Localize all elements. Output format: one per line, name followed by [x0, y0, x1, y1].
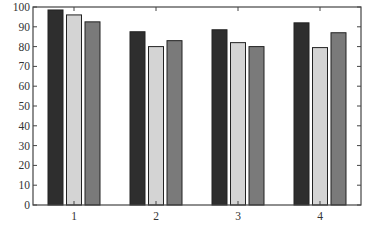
- bar-series-3-cat-4: [331, 33, 346, 205]
- bar-series-1-cat-4: [294, 23, 309, 205]
- bar-series-2-cat-3: [231, 43, 246, 205]
- y-tick-label: 80: [19, 41, 31, 53]
- y-tick-label: 100: [13, 1, 31, 13]
- y-tick-label: 20: [19, 159, 31, 171]
- y-tick-label: 90: [19, 21, 31, 33]
- y-tick-label: 60: [19, 80, 31, 92]
- bar-chart: 01020304050607080901001234: [0, 0, 373, 229]
- x-tick-label: 4: [317, 210, 323, 222]
- bars-group: [48, 10, 346, 205]
- bar-series-2-cat-2: [149, 47, 164, 205]
- bar-series-1-cat-1: [48, 10, 63, 205]
- bar-series-3-cat-3: [249, 47, 264, 205]
- x-tick-label: 1: [71, 210, 77, 222]
- y-tick-label: 50: [19, 100, 31, 112]
- bar-series-2-cat-1: [67, 15, 82, 205]
- x-tick-label: 2: [153, 210, 159, 222]
- bar-series-2-cat-4: [313, 48, 328, 205]
- bar-series-1-cat-3: [212, 30, 227, 205]
- axes-group: [33, 7, 361, 205]
- plot-frame: [33, 7, 361, 205]
- y-tick-label: 0: [24, 199, 30, 211]
- x-tick-label: 3: [235, 210, 241, 222]
- bar-series-3-cat-2: [167, 41, 182, 205]
- y-tick-label: 40: [19, 120, 31, 132]
- bar-series-1-cat-2: [130, 32, 145, 205]
- y-tick-label: 30: [19, 140, 31, 152]
- y-tick-label: 10: [19, 179, 31, 191]
- bar-series-3-cat-1: [85, 22, 100, 205]
- y-tick-label: 70: [19, 60, 31, 72]
